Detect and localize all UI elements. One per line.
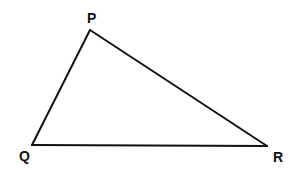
edge-qr (32, 145, 267, 146)
vertex-label-p: P (87, 10, 96, 26)
edge-pq (32, 30, 90, 145)
vertex-label-q: Q (19, 148, 30, 164)
edge-rp (90, 30, 267, 146)
vertex-label-r: R (273, 149, 283, 165)
triangle-diagram: P Q R (0, 0, 298, 170)
